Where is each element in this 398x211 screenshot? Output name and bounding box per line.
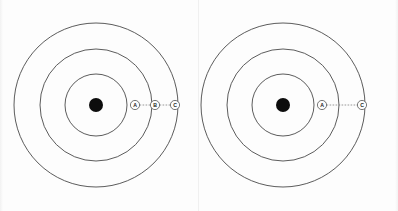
marker-b[interactable]: B [150,100,159,109]
left-diagram-svg: A B C [0,0,199,211]
left-diagram-panel: A B C [0,0,199,211]
right-diagram-panel: A C [199,0,398,211]
marker-b-label: B [153,102,157,108]
marker-a[interactable]: A [130,100,139,109]
marker-c[interactable]: C [357,100,366,109]
marker-a-label: A [320,102,324,108]
figure-root: A B C A [0,0,398,211]
center-dot [89,98,103,112]
marker-c[interactable]: C [170,100,179,109]
center-dot [276,98,290,112]
right-diagram-svg: A C [199,0,398,211]
marker-a[interactable]: A [317,100,326,109]
marker-c-label: C [360,102,364,108]
marker-a-label: A [133,102,137,108]
marker-c-label: C [173,102,177,108]
